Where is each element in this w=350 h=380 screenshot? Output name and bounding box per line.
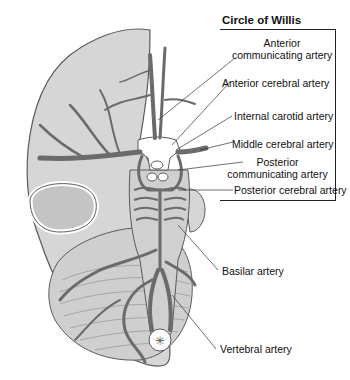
label-vertebral-artery: Vertebral artery: [220, 343, 292, 355]
title-rule: [220, 29, 336, 30]
bracket-frame-bottom: [220, 200, 336, 201]
label-line: communicating artery: [220, 168, 335, 180]
label-internal-carotid-artery: Internal carotid artery: [234, 110, 333, 122]
label-line: Posterior: [220, 156, 335, 168]
bracket-frame-right: [335, 30, 336, 201]
label-line: Anterior: [232, 37, 332, 49]
label-basilar-artery: Basilar artery: [222, 265, 284, 277]
label-middle-cerebral-artery: Middle cerebral artery: [232, 138, 334, 150]
svg-text:✳: ✳: [155, 334, 165, 348]
label-anterior-communicating-artery: Anterior communicating artery: [232, 37, 332, 61]
figure-title: Circle of Willis: [222, 14, 301, 26]
label-line: communicating artery: [232, 49, 332, 61]
label-posterior-cerebral-artery: Posterior cerebral artery: [234, 184, 347, 196]
label-anterior-cerebral-artery: Anterior cerebral artery: [222, 77, 329, 89]
label-posterior-communicating-artery: Posterior communicating artery: [220, 156, 335, 180]
circle-of-willis-diagram: ✳: [0, 0, 350, 380]
